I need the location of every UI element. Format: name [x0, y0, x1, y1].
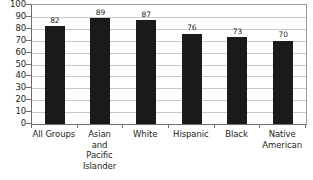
y-tick-label-40: 40: [15, 71, 26, 80]
x-axis-labels: All Groups Asian and Pacific Islander Wh…: [31, 129, 305, 180]
bar-slot: 87: [123, 5, 169, 124]
x-label-native-american: Native American: [259, 129, 305, 150]
bar-hispanic[interactable]: [182, 34, 202, 124]
x-tick-mark: [259, 124, 260, 128]
bar-value-label: 87: [141, 11, 150, 19]
bar-slot: 76: [169, 5, 215, 124]
bar-value-label: 73: [233, 28, 242, 36]
x-label-all-groups: All Groups: [31, 129, 77, 140]
y-tick-label-30: 30: [15, 83, 26, 92]
bar-white[interactable]: [136, 20, 156, 124]
x-label-white: White: [122, 129, 168, 140]
x-label-asian-and-pacific-islander: Asian and Pacific Islander: [77, 129, 123, 171]
bars-layer: 82 89 87 76 73 70: [32, 5, 306, 124]
y-tick-label-10: 10: [15, 107, 26, 116]
y-axis: 100 90 80 70 60 50 40 30 20 10 0: [0, 0, 31, 180]
x-tick-mark: [122, 124, 123, 128]
bar-black[interactable]: [227, 37, 247, 124]
y-tick-label-60: 60: [15, 48, 26, 57]
y-tick-label-80: 80: [15, 24, 26, 33]
bar-value-label: 76: [187, 24, 196, 32]
y-tick-label-50: 50: [15, 60, 26, 69]
x-tick-mark: [77, 124, 78, 128]
bar-all-groups[interactable]: [45, 26, 65, 124]
x-label-hispanic: Hispanic: [168, 129, 214, 140]
bar-slot: 73: [215, 5, 261, 124]
y-tick-label-100: 100: [10, 0, 26, 9]
x-label-black: Black: [214, 129, 260, 140]
y-tick-label-70: 70: [15, 36, 26, 45]
bar-value-label: 82: [50, 17, 59, 25]
x-tick-mark: [31, 124, 32, 128]
x-tick-mark: [305, 124, 306, 128]
x-tick-mark: [214, 124, 215, 128]
x-tick-mark: [168, 124, 169, 128]
bar-value-label: 70: [278, 31, 287, 39]
plot-area: 82 89 87 76 73 70: [31, 4, 307, 125]
bar-asian-and-pacific-islander[interactable]: [90, 18, 110, 124]
bar-value-label: 89: [96, 9, 105, 17]
bar-chart: 100 90 80 70 60 50 40 30 20 10 0: [0, 0, 313, 180]
bar-slot: 70: [260, 5, 306, 124]
bar-slot: 89: [78, 5, 124, 124]
y-tick-label-90: 90: [15, 12, 26, 21]
y-tick-label-20: 20: [15, 95, 26, 104]
bar-slot: 82: [32, 5, 78, 124]
bar-native-american[interactable]: [273, 41, 293, 124]
